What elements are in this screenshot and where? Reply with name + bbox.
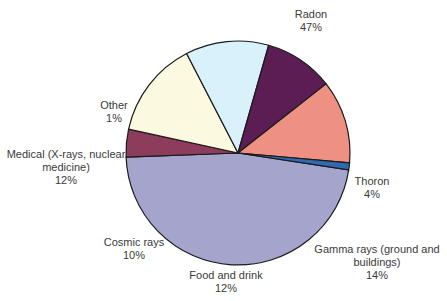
label-food: Food and drink 12% xyxy=(178,269,274,295)
label-cosmic-name: Cosmic rays xyxy=(94,236,174,249)
label-gamma: Gamma rays (ground and buildings) 14% xyxy=(310,243,444,282)
label-gamma-name: Gamma rays (ground and xyxy=(310,243,444,256)
label-thoron-name: Thoron xyxy=(350,175,394,188)
label-radon: Radon 47% xyxy=(276,8,346,34)
label-radon-pct: 47% xyxy=(276,21,346,34)
label-gamma-pct: 14% xyxy=(310,269,444,282)
label-radon-name: Radon xyxy=(276,8,346,21)
label-medical-pct: 12% xyxy=(4,174,128,187)
label-other-name: Other xyxy=(94,99,134,112)
label-thoron: Thoron 4% xyxy=(350,175,394,201)
label-medical-name-2: medicine) xyxy=(4,161,128,174)
label-medical-name: Medical (X-rays, nuclear xyxy=(4,148,128,161)
label-medical: Medical (X-rays, nuclear medicine) 12% xyxy=(4,148,128,187)
label-cosmic: Cosmic rays 10% xyxy=(94,236,174,262)
label-food-pct: 12% xyxy=(178,282,274,295)
label-cosmic-pct: 10% xyxy=(94,249,174,262)
label-gamma-name-2: buildings) xyxy=(310,256,444,269)
label-other-pct: 1% xyxy=(94,112,134,125)
label-thoron-pct: 4% xyxy=(350,188,394,201)
label-food-name: Food and drink xyxy=(178,269,274,282)
label-other: Other 1% xyxy=(94,99,134,125)
